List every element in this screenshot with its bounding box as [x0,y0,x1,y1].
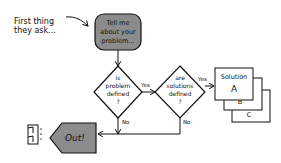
start-line1: Tell me [106,19,130,27]
exit-door-icon [28,125,42,144]
label-yes2: Yes [197,76,207,82]
decision1-line2: problem [106,82,131,90]
annotation: First thing they ask... [14,17,88,35]
solution-c-label: C [247,111,252,119]
annotation-line1: First thing [14,17,54,26]
out-terminal: Out! [50,123,96,153]
start-line3: problem... [101,37,134,45]
label-no2: No [183,119,191,125]
start-line2: about your [100,28,136,36]
decision-problem-defined: is problem defined ? [94,66,142,118]
decision2-line2: solutions [167,82,194,89]
solution-a-label: A [231,84,238,94]
solution-a-title: Solution [221,73,247,81]
flowchart: First thing they ask... Tell me about yo… [0,0,281,163]
solutions-stack: C B Solution A [215,68,270,122]
decision-solutions-defined: are solutions defined ? [155,66,205,118]
annotation-line2: they ask... [14,26,56,35]
start-terminal: Tell me about your problem... [95,14,141,50]
label-no1: No [122,119,130,125]
decision1-line1: is [116,74,121,81]
out-label: Out! [65,133,85,143]
decision2-line1: are [175,74,185,81]
annotation-arrow [66,17,88,26]
decision2-line4: ? [178,98,181,105]
decision2-line3: defined [169,90,192,97]
label-yes1: Yes [140,82,150,88]
decision1-line3: defined [107,90,130,97]
decision1-line4: ? [116,98,119,105]
